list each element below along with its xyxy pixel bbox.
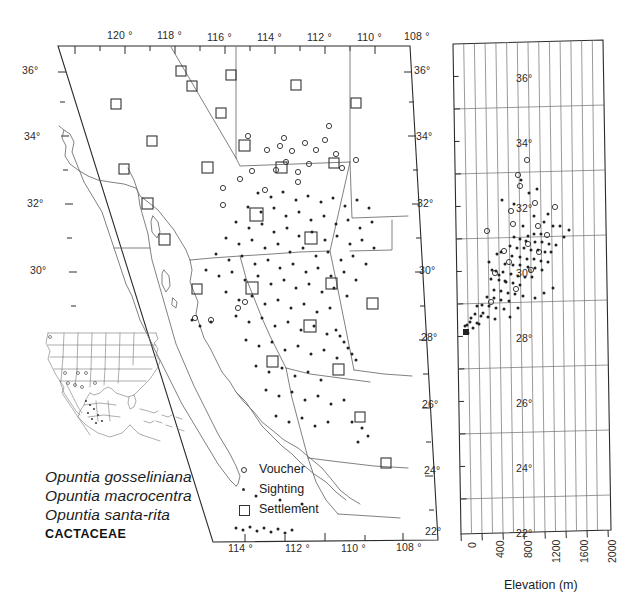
bottom-axis-label-108: 108 ° (396, 541, 422, 553)
scatter-ylabel-26: 26° (516, 397, 532, 409)
sighting-symbol-icon (242, 488, 245, 491)
taxon-name-1: Opuntia gosseliniana (45, 468, 192, 486)
bottom-axis-label-112: 112 ° (285, 542, 310, 554)
right-axis-label-34: 34° (416, 130, 432, 142)
legend-label-sighting: Sighting (259, 482, 304, 496)
top-axis-label-112: 112 ° (307, 31, 332, 43)
left-axis-label-36: 36° (22, 64, 38, 76)
map-legend: Voucher Sighting Settlement (236, 462, 346, 524)
legend-label-voucher: Voucher (259, 462, 305, 476)
taxon-name-3: Opuntia santa-rita (45, 506, 170, 524)
scatter-x-axis-title: Elevation (m) (504, 578, 578, 592)
scatter-ylabel-28: 28° (516, 332, 532, 344)
scatter-ylabel-36: 36° (516, 72, 532, 84)
right-axis-label-24: 24° (424, 464, 440, 476)
right-axis-label-28: 28° (421, 331, 437, 343)
scatter-ylabel-22: 22° (516, 527, 532, 539)
scatter-xlabel-1200: 1200 (550, 540, 562, 563)
legend-label-settlement: Settlement (259, 502, 319, 516)
left-axis-label-34: 34° (24, 130, 40, 142)
right-axis-label-26: 26° (422, 398, 438, 410)
right-axis-label-30: 30° (419, 264, 435, 276)
right-axis-label-22: 22° (425, 525, 441, 537)
left-axis-label-32: 32° (27, 197, 43, 209)
top-axis-label-108: 108 ° (404, 30, 430, 42)
scatter-xlabel-400: 400 (494, 540, 506, 558)
scatter-ylabel-32: 32° (516, 202, 532, 214)
taxon-name-2: Opuntia macrocentra (45, 487, 192, 505)
top-axis-label-120: 120 ° (107, 29, 133, 41)
scatter-xlabel-0: 0 (466, 542, 478, 548)
scatter-xlabel-1600: 1600 (578, 540, 590, 563)
scatter-ylabel-30: 30° (516, 267, 532, 279)
bottom-axis-label-114: 114 ° (228, 542, 253, 554)
scatter-xlabel-2000: 2000 (606, 540, 618, 563)
family-name: CACTACEAE (45, 527, 126, 541)
north-america-inset-map (30, 325, 195, 445)
right-axis-label-32: 32° (417, 197, 433, 209)
scatter-ylabel-24: 24° (516, 462, 532, 474)
figure-root: 120 ° 118 ° 116 ° 114 ° 112 ° 110 ° 108 … (0, 0, 635, 598)
settlement-symbol-icon (239, 505, 250, 516)
bottom-axis-label-110: 110 ° (341, 542, 366, 554)
top-axis-label-114: 114 ° (257, 31, 282, 43)
top-axis-label-110: 110 ° (357, 31, 382, 43)
scatter-xlabel-800: 800 (522, 540, 534, 558)
scatter-ylabel-34: 34° (516, 137, 532, 149)
voucher-symbol-icon (241, 467, 247, 473)
right-axis-label-36: 36° (414, 64, 430, 76)
left-axis-label-30: 30° (30, 264, 46, 276)
top-axis-label-118: 118 ° (157, 29, 182, 41)
top-axis-label-116: 116 ° (207, 31, 232, 43)
